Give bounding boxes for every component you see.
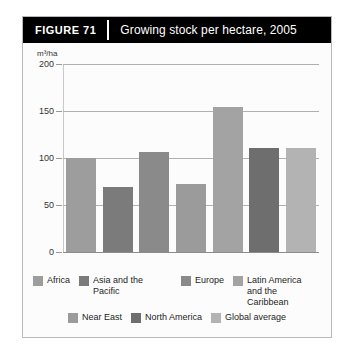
legend-label: Europe — [195, 275, 224, 286]
legend-item-global-average[interactable]: Global average — [211, 312, 286, 323]
bar-latin-america-and-the-caribbean — [213, 107, 243, 252]
figure-panel: FIGURE 71 Growing stock per hectare, 200… — [22, 16, 332, 338]
legend-label: Global average — [225, 312, 286, 323]
y-axis-tick-50: 50 — [44, 200, 63, 210]
bar-north-america — [249, 148, 279, 252]
legend-swatch-icon — [181, 276, 191, 286]
legend-swatch-icon — [33, 276, 43, 286]
legend-item-north-america[interactable]: North America — [131, 312, 202, 323]
legend-swatch-icon — [131, 313, 141, 323]
figure-header: FIGURE 71 Growing stock per hectare, 200… — [23, 17, 331, 43]
bar-global-average — [286, 148, 316, 252]
legend-label: Asia and the Pacific — [93, 275, 172, 297]
legend-item-africa[interactable]: Africa — [33, 275, 70, 308]
legend-item-asia-and-the-pacific[interactable]: Asia and the Pacific — [79, 275, 172, 308]
y-axis-tick-150: 150 — [39, 106, 63, 116]
bar-near-east — [176, 184, 206, 252]
y-axis-tick-0: 0 — [49, 247, 63, 257]
legend-item-near-east[interactable]: Near East — [68, 312, 122, 323]
chart-area: m³/ha 050100150200 — [23, 43, 331, 275]
bar-africa — [66, 158, 96, 252]
figure-number-label: FIGURE 71 — [23, 17, 107, 43]
bar-asia-and-the-pacific — [103, 187, 133, 252]
legend-swatch-icon — [233, 276, 243, 286]
legend-label: Latin America and the Caribbean — [247, 275, 321, 308]
y-axis-tick-100: 100 — [39, 153, 63, 163]
legend-swatch-icon — [68, 313, 78, 323]
y-axis-tick-200: 200 — [39, 59, 63, 69]
legend-row-2: Near EastNorth AmericaGlobal average — [33, 312, 321, 323]
legend-label: Near East — [82, 312, 122, 323]
bar-europe — [139, 152, 169, 252]
legend-item-europe[interactable]: Europe — [181, 275, 224, 308]
figure-page: FIGURE 71 Growing stock per hectare, 200… — [0, 0, 354, 360]
legend-swatch-icon — [79, 276, 89, 286]
legend-label: Africa — [47, 275, 70, 286]
chart-legend: AfricaAsia and the PacificEuropeLatin Am… — [23, 275, 331, 327]
y-axis-line — [63, 65, 64, 253]
bar-series — [66, 65, 316, 252]
x-axis-baseline — [63, 252, 319, 253]
legend-label: North America — [145, 312, 202, 323]
legend-swatch-icon — [211, 313, 221, 323]
legend-row-1: AfricaAsia and the PacificEuropeLatin Am… — [33, 275, 321, 308]
figure-title: Growing stock per hectare, 2005 — [109, 17, 297, 43]
legend-item-latin-america-and-the-caribbean[interactable]: Latin America and the Caribbean — [233, 275, 321, 308]
y-axis-unit-label: m³/ha — [37, 49, 57, 58]
plot-region: 050100150200 — [63, 65, 319, 253]
